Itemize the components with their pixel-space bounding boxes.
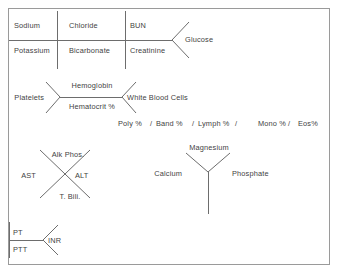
label-hemoglobin: Hemoglobin [72,81,113,90]
label-glucose: Glucose [185,35,213,44]
label-calcium: Calcium [154,169,182,178]
label-inr: INR [48,236,61,245]
label-alk-phos: Alk Phos. [52,150,85,159]
label-white-blood-cells: White Blood Cells [127,93,188,102]
label-hematocrit: Hematocrit % [69,102,115,111]
label-bicarbonate: Bicarbonate [69,46,110,55]
label-phosphate: Phosphate [232,169,269,178]
label-pt: PT [13,228,23,237]
label-diff-separator-1: / [150,119,152,128]
label-potassium: Potassium [14,46,50,55]
label-ptt: PTT [13,245,27,254]
label-eos-percent: Eos% [298,119,318,128]
label-bun: BUN [130,21,146,30]
label-platelets: Platelets [14,93,44,102]
label-chloride: Chloride [69,21,98,30]
label-sodium: Sodium [14,21,40,30]
label-mono-percent: Mono % [258,119,286,128]
label-ast: AST [21,171,36,180]
label-diff-separator-2: / [192,119,194,128]
label-diff-separator-4: / [288,119,290,128]
diagram-frame [8,8,330,265]
label-creatinine: Creatinine [130,46,165,55]
label-diff-separator-3: / [235,119,237,128]
label-magnesium: Magnesium [189,143,229,152]
label-poly-percent: Poly % [118,119,142,128]
lab-fishbone-diagram: Sodium Chloride BUN Potassium Bicarbonat… [0,0,341,273]
label-total-bilirubin: T. Bili. [60,192,81,201]
label-lymph-percent: Lymph % [198,119,230,128]
label-alt: ALT [75,171,88,180]
label-band-percent: Band % [156,119,183,128]
